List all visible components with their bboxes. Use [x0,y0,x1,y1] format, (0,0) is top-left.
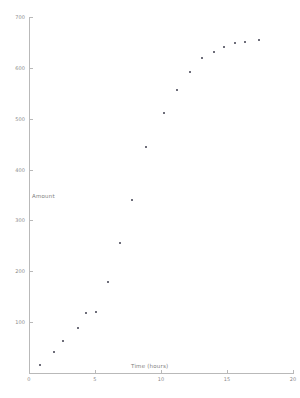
data-point [234,42,236,44]
data-point [189,71,191,73]
data-point [77,327,79,329]
data-point [131,199,133,201]
y-tick-label: 300 [3,217,25,223]
data-point [85,312,87,314]
x-tick-mark [29,370,30,374]
x-tick-mark [227,370,228,374]
y-tick-mark [29,17,33,18]
data-point [213,51,215,53]
y-tick-label: 500 [3,116,25,122]
y-tick-label: 700 [3,14,25,20]
y-tick-label: 100 [3,319,25,325]
data-point [244,41,246,43]
x-tick-label: 15 [219,376,235,382]
x-tick-mark [293,370,294,374]
chart-screenshot: 100200300400500600700 05101520 Amount Ti… [0,0,300,398]
scatter-plot: 100200300400500600700 05101520 Amount Ti… [0,0,300,398]
x-tick-label: 20 [285,376,300,382]
x-tick-mark [161,370,162,374]
x-axis-title: Time (hours) [131,363,168,369]
y-axis-line [29,17,30,374]
y-tick-mark [29,322,33,323]
y-tick-mark [29,170,33,171]
y-tick-mark [29,220,33,221]
data-point [163,112,165,114]
x-tick-label: 10 [153,376,169,382]
data-point [107,281,109,283]
y-tick-mark [29,68,33,69]
data-point [95,311,97,313]
y-tick-label: 600 [3,65,25,71]
y-tick-mark [29,119,33,120]
data-point [176,89,178,91]
x-tick-label: 0 [21,376,37,382]
y-axis-title: Amount [32,193,55,199]
y-tick-label: 400 [3,167,25,173]
data-point [53,351,55,353]
x-tick-label: 5 [87,376,103,382]
y-tick-mark [29,271,33,272]
data-point [119,242,121,244]
data-point [201,57,203,59]
data-point [145,146,147,148]
data-point [258,39,260,41]
x-tick-mark [95,370,96,374]
data-point [223,46,225,48]
data-point [62,340,64,342]
data-point [39,364,41,366]
y-tick-label: 200 [3,268,25,274]
